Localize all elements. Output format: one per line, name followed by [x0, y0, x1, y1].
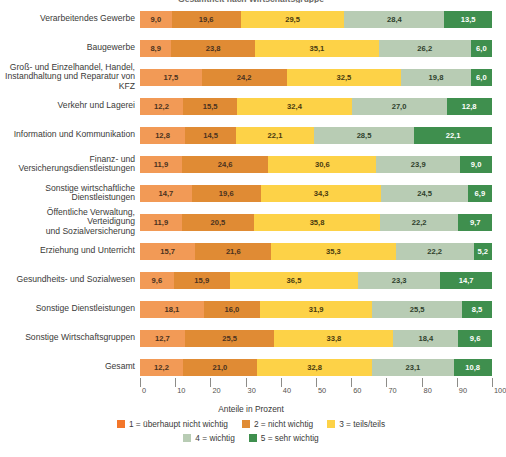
legend-label: 3 = teils/teils — [339, 419, 385, 429]
legend-label: 4 = wichtig — [195, 433, 234, 443]
bar-segment-4: 22,2 — [396, 243, 474, 260]
bar-segment-3: 31,9 — [260, 301, 372, 318]
segment-value: 10,8 — [465, 363, 480, 372]
stacked-bar: 12,814,522,128,522,1 — [140, 127, 492, 144]
axis-tick-label: 90 — [459, 386, 467, 395]
axis-tick-label: 30 — [248, 386, 256, 395]
chart-row: Verkehr und Lagerei12,215,532,427,012,8 — [0, 97, 502, 115]
axis-tick — [210, 378, 211, 387]
bar-segment-3: 34,3 — [261, 185, 382, 202]
stacked-bar: 11,924,630,623,99,0 — [140, 156, 492, 173]
segment-value: 19,6 — [219, 189, 234, 198]
bar-segment-1: 9,0 — [140, 11, 172, 28]
axis-tick-label: 50 — [318, 386, 326, 395]
bar-segment-4: 27,0 — [352, 98, 447, 115]
segment-value: 31,9 — [309, 305, 324, 314]
legend-item-5[interactable]: 5 = sehr wichtig — [249, 433, 319, 443]
segment-value: 12,2 — [154, 102, 169, 111]
row-label-line: Instandhaltung und Reparatur von KFZ — [0, 72, 135, 91]
legend-label: 2 = nicht wichtig — [254, 419, 313, 429]
bar-segment-5: 6,0 — [471, 69, 492, 86]
bar-segment-5: 13,5 — [444, 11, 492, 28]
bar-segment-2: 21,0 — [183, 359, 257, 376]
legend-swatch-icon — [327, 420, 335, 428]
axis-tick — [246, 378, 247, 387]
stacked-bar: 17,524,232,519,86,0 — [140, 69, 492, 86]
bar-segment-3: 30,6 — [268, 156, 376, 173]
axis-tick — [351, 378, 352, 387]
bar-segment-4: 18,4 — [393, 330, 458, 347]
bar-segment-4: 28,4 — [344, 11, 444, 28]
segment-value: 23,3 — [392, 276, 407, 285]
row-label: Finanz- undVersicherungsdienstleistungen — [0, 155, 140, 174]
axis-tick-label: 100 — [494, 386, 506, 395]
axis-tick — [492, 378, 493, 387]
segment-value: 15,9 — [194, 276, 209, 285]
segment-value: 34,3 — [314, 189, 329, 198]
row-label: Sonstige Dienstleistungen — [0, 304, 140, 313]
bar-segment-4: 26,2 — [379, 40, 471, 57]
axis-tick-label: 20 — [212, 386, 220, 395]
bar-segment-2: 19,6 — [192, 185, 261, 202]
legend-item-1[interactable]: 1 = überhaupt nicht wichtig — [117, 419, 228, 429]
segment-value: 36,5 — [287, 276, 302, 285]
bar-segment-1: 14,7 — [140, 185, 192, 202]
segment-value: 19,8 — [429, 73, 444, 82]
bar-segment-2: 16,0 — [204, 301, 260, 318]
bar-segment-1: 12,7 — [140, 330, 185, 347]
row-label-line: Dienstleistungen — [0, 193, 135, 202]
legend-item-3[interactable]: 3 = teils/teils — [327, 419, 385, 429]
bar-segment-3: 22,1 — [236, 127, 314, 144]
bar-segment-1: 17,5 — [140, 69, 202, 86]
axis-tick-label: 70 — [388, 386, 396, 395]
segment-value: 11,9 — [154, 160, 168, 169]
segment-value: 8,5 — [472, 305, 483, 314]
bar-segment-5: 10,8 — [454, 359, 492, 376]
row-label: Erziehung und Unterricht — [0, 246, 140, 255]
segment-value: 32,4 — [287, 102, 302, 111]
chart-row: Sonstige Wirtschaftsgruppen12,725,533,81… — [0, 329, 502, 347]
bar-segment-5: 6,9 — [468, 185, 492, 202]
segment-value: 23,1 — [406, 363, 421, 372]
bar-segment-3: 33,8 — [274, 330, 393, 347]
chart-row: Baugewerbe8,923,835,126,26,0 — [0, 39, 502, 57]
axis-tick — [175, 378, 176, 387]
bar-segment-1: 9,6 — [140, 272, 174, 289]
segment-value: 17,5 — [163, 73, 178, 82]
bar-segment-1: 12,2 — [140, 359, 183, 376]
legend-label: 5 = sehr wichtig — [261, 433, 319, 443]
legend-swatch-icon — [242, 420, 250, 428]
legend-swatch-icon — [183, 434, 191, 442]
bar-segment-5: 14,7 — [440, 272, 492, 289]
legend-row: 4 = wichtig5 = sehr wichtig — [0, 433, 502, 443]
row-label: Verkehr und Lagerei — [0, 101, 140, 110]
bar-segment-2: 15,9 — [174, 272, 230, 289]
legend-item-2[interactable]: 2 = nicht wichtig — [242, 419, 313, 429]
stacked-bar: 14,719,634,324,56,9 — [140, 185, 492, 202]
row-label: Information und Kommunikation — [0, 130, 140, 139]
bar-segment-4: 23,1 — [372, 359, 453, 376]
legend-swatch-icon — [117, 420, 125, 428]
legend-item-4[interactable]: 4 = wichtig — [183, 433, 234, 443]
segment-value: 15,7 — [160, 247, 175, 256]
segment-value: 28,5 — [357, 131, 372, 140]
segment-value: 26,2 — [417, 44, 432, 53]
segment-value: 21,6 — [226, 247, 241, 256]
row-label-line: Gesundheits- und Sozialwesen — [0, 275, 135, 284]
plot-area: Verarbeitendes Gewerbe9,019,629,528,413,… — [0, 10, 502, 387]
chart-title: Gesamtheit nach Wirtschaftsgruppe — [0, 0, 502, 3]
chart-row: Gesamt12,221,032,823,110,8 — [0, 358, 502, 376]
segment-value: 12,7 — [155, 334, 170, 343]
stacked-bar: 12,215,532,427,012,8 — [140, 98, 492, 115]
segment-value: 19,6 — [199, 15, 214, 24]
segment-value: 14,7 — [459, 276, 474, 285]
row-label-line: Verkehr und Lagerei — [0, 101, 135, 110]
bar-segment-3: 29,5 — [241, 11, 345, 28]
segment-value: 24,6 — [218, 160, 233, 169]
chart-row: Öffentliche Verwaltung, Verteidigungund … — [0, 213, 502, 231]
bar-segment-2: 21,6 — [195, 243, 271, 260]
x-axis: 0102030405060708090100 — [140, 378, 492, 402]
legend-swatch-icon — [249, 434, 257, 442]
bar-segment-5: 12,8 — [447, 98, 492, 115]
segment-value: 24,5 — [417, 189, 432, 198]
